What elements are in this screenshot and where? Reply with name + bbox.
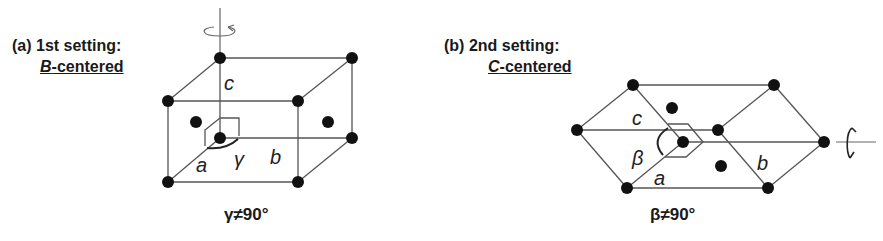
atom [621, 182, 633, 194]
atom [818, 136, 830, 148]
atom [677, 136, 689, 148]
panel-a-label-c: c [224, 72, 234, 94]
unit-cell-diagrams: c a γ b γ≠90° c β [0, 0, 883, 241]
atom [292, 176, 304, 188]
atom [346, 132, 358, 144]
face-center-atom [322, 116, 334, 128]
atom [292, 95, 304, 107]
panel-a-condition: γ≠90° [224, 205, 269, 224]
atom [712, 124, 724, 136]
edge [168, 58, 220, 101]
edge [768, 142, 824, 188]
panel-b-cell: c β a b β≠90° [571, 79, 876, 224]
panel-b-beta-arc [658, 128, 668, 155]
panel-b-label-a: a [654, 167, 665, 189]
edge [298, 58, 352, 101]
panel-a-label-b: b [270, 146, 281, 168]
panel-a-cell: c a γ b γ≠90° [162, 8, 358, 224]
atom [214, 132, 226, 144]
face-center-atom [715, 160, 727, 172]
atom [768, 79, 780, 91]
atom [162, 95, 174, 107]
face-center-atom [666, 102, 678, 114]
a-axis [168, 138, 220, 182]
panel-b-label-c: c [632, 107, 642, 129]
panel-a-label-a: a [196, 154, 207, 176]
face-center-atom [190, 116, 202, 128]
panel-a-label-gamma: γ [234, 148, 245, 170]
panel-b-rotation-arrow-icon [847, 128, 856, 158]
edge [577, 130, 627, 188]
edge [298, 138, 352, 182]
atom [214, 52, 226, 64]
panel-b-condition: β≠90° [650, 205, 696, 224]
edge [774, 85, 824, 142]
atom [627, 79, 639, 91]
atom [571, 124, 583, 136]
edge [577, 85, 633, 130]
atom [762, 182, 774, 194]
edge [718, 85, 774, 130]
atom [162, 176, 174, 188]
panel-b-label-b: b [757, 152, 768, 174]
panel-b-label-beta: β [631, 147, 643, 169]
atom [346, 52, 358, 64]
